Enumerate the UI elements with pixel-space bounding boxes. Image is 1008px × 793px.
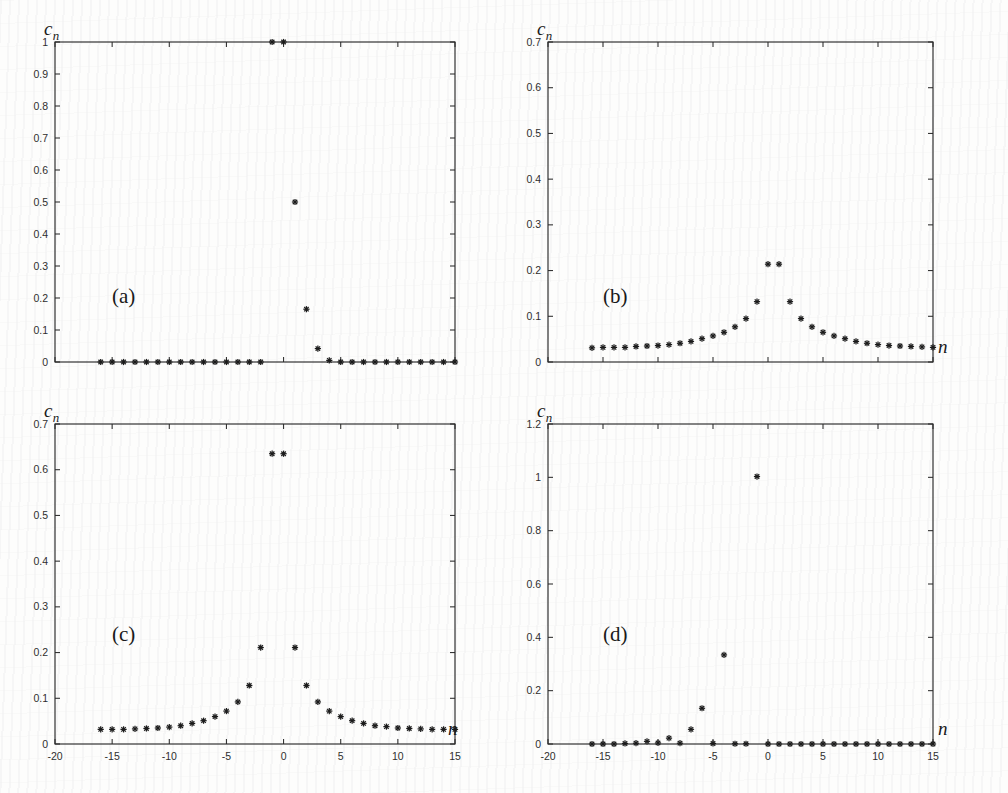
panel-b-ylabel: cn bbox=[537, 18, 552, 44]
x-tick-label: 0 bbox=[765, 750, 771, 762]
data-series bbox=[589, 473, 936, 747]
x-tick-label: -10 bbox=[650, 750, 665, 762]
y-tick-label: 0.5 bbox=[526, 127, 541, 139]
panel-c: cn n (c) 00.10.20.30.40.50.60.7-20-15-10… bbox=[0, 400, 490, 790]
x-tick-label: -20 bbox=[540, 750, 555, 762]
x-tick-label: -20 bbox=[47, 750, 62, 762]
y-tick-label: 0 bbox=[42, 356, 48, 368]
panel-b: cn n (b) 00.10.20.30.40.50.60.7 bbox=[495, 18, 975, 388]
panel-d: cn n (d) 00.20.40.60.811.2-20-15-10-5051… bbox=[495, 400, 985, 790]
x-tick-label: 0 bbox=[281, 750, 287, 762]
x-tick-label: 10 bbox=[872, 750, 884, 762]
data-series bbox=[589, 261, 936, 351]
y-tick-label: 0.4 bbox=[526, 631, 541, 643]
x-tick-label: 5 bbox=[338, 750, 344, 762]
x-tick-label: -5 bbox=[222, 750, 231, 762]
panel-d-plot: 00.20.40.60.811.2-20-15-10-5051015 bbox=[495, 400, 985, 790]
y-tick-label: 0.2 bbox=[33, 292, 48, 304]
y-tick-label: 0.6 bbox=[33, 164, 48, 176]
panel-c-plot: 00.10.20.30.40.50.60.7-20-15-10-5051015 bbox=[0, 400, 490, 790]
panel-d-ylabel: cn bbox=[537, 400, 552, 426]
x-tick-label: 15 bbox=[449, 750, 461, 762]
y-tick-label: 0.1 bbox=[33, 324, 48, 336]
panel-c-ylabel: cn bbox=[44, 400, 59, 426]
y-tick-label: 0.4 bbox=[33, 228, 48, 240]
x-tick-label: 15 bbox=[927, 750, 939, 762]
x-tick-label: 10 bbox=[392, 750, 404, 762]
y-tick-label: 0.8 bbox=[33, 100, 48, 112]
y-tick-label: 0 bbox=[535, 738, 541, 750]
y-tick-label: 0.2 bbox=[526, 684, 541, 696]
panel-a-ylabel: cn bbox=[44, 18, 59, 44]
x-tick-label: -15 bbox=[105, 750, 120, 762]
y-tick-label: 0.2 bbox=[526, 264, 541, 276]
panel-b-tag: (b) bbox=[603, 284, 628, 309]
y-tick-label: 0.9 bbox=[33, 68, 48, 80]
x-tick-label: 5 bbox=[820, 750, 826, 762]
x-tick-label: -15 bbox=[595, 750, 610, 762]
panel-b-plot: 00.10.20.30.40.50.60.7 bbox=[495, 18, 975, 388]
y-tick-label: 0 bbox=[535, 356, 541, 368]
y-tick-label: 0.8 bbox=[526, 524, 541, 536]
y-tick-label: 0.4 bbox=[33, 555, 48, 567]
y-tick-label: 0 bbox=[42, 738, 48, 750]
y-tick-label: 0.6 bbox=[33, 463, 48, 475]
panel-c-xlabel: n bbox=[448, 718, 458, 740]
y-tick-label: 0.5 bbox=[33, 509, 48, 521]
y-tick-label: 0.6 bbox=[526, 81, 541, 93]
y-tick-label: 0.3 bbox=[33, 260, 48, 272]
y-tick-label: 0.3 bbox=[33, 600, 48, 612]
panel-a-tag: (a) bbox=[112, 284, 135, 309]
panel-a-plot: 00.10.20.30.40.50.60.70.80.91 bbox=[0, 18, 480, 388]
panel-d-xlabel: n bbox=[938, 718, 948, 740]
y-tick-label: 0.5 bbox=[33, 196, 48, 208]
figure-root: cn (a) 00.10.20.30.40.50.60.70.80.91 cn … bbox=[0, 0, 1008, 793]
y-tick-label: 0.3 bbox=[526, 218, 541, 230]
data-series bbox=[98, 39, 458, 365]
panel-d-tag: (d) bbox=[603, 622, 628, 647]
x-tick-label: -5 bbox=[708, 750, 717, 762]
data-series bbox=[98, 451, 458, 733]
y-tick-label: 0.1 bbox=[526, 310, 541, 322]
x-tick-label: -10 bbox=[162, 750, 177, 762]
panel-b-xlabel: n bbox=[938, 336, 948, 358]
y-tick-label: 0.4 bbox=[526, 173, 541, 185]
panel-a: cn (a) 00.10.20.30.40.50.60.70.80.91 bbox=[0, 18, 480, 388]
y-tick-label: 0.7 bbox=[33, 132, 48, 144]
panel-c-tag: (c) bbox=[112, 622, 135, 647]
y-tick-label: 1 bbox=[535, 471, 541, 483]
y-tick-label: 0.1 bbox=[33, 692, 48, 704]
y-tick-label: 0.6 bbox=[526, 578, 541, 590]
y-tick-label: 0.2 bbox=[33, 646, 48, 658]
